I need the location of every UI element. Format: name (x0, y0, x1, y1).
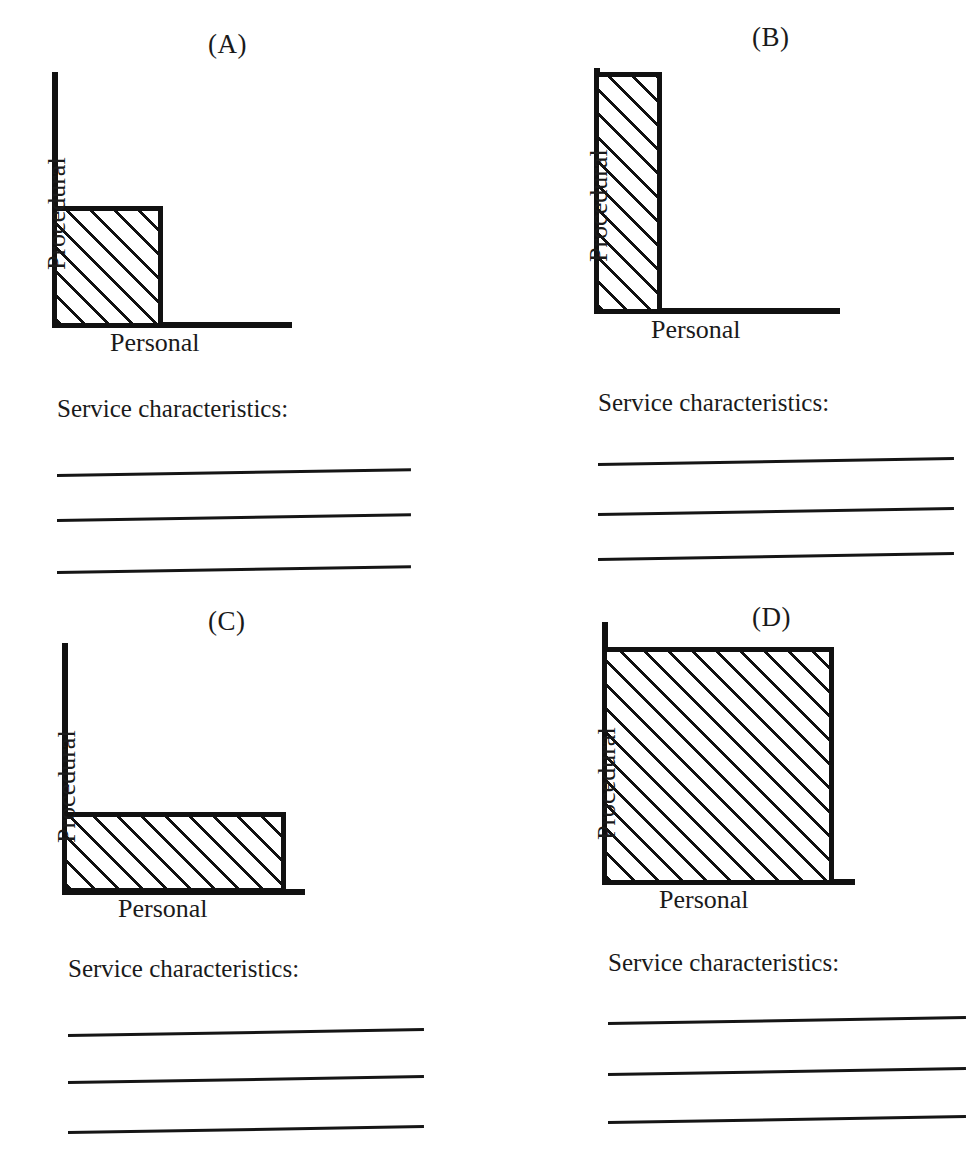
panel-d-service-characteristics-title: Service characteristics: (608, 950, 839, 975)
panel-b-blank-line-3 (598, 552, 954, 561)
panel-b-service-characteristics-title: Service characteristics: (598, 390, 829, 415)
panel-b-chart: Procedural Personal (0, 0, 979, 360)
figure-page: (A) Procedural Personal Service characte… (0, 0, 979, 1157)
panel-d-y-axis-label: Procedural (594, 727, 620, 840)
panel-d-blank-line-1 (608, 1016, 966, 1025)
panel-b-x-axis-label: Personal (651, 317, 741, 343)
panel-d-blank-line-3 (608, 1115, 966, 1124)
panel-d: (D) Procedural Personal Service characte… (0, 590, 979, 1157)
panel-d-x-axis-label: Personal (659, 887, 749, 913)
panel-b-blank-line-1 (598, 457, 954, 466)
panel-d-chart: Procedural Personal (0, 590, 979, 930)
panel-b: (B) Procedural Personal Service characte… (0, 0, 979, 590)
panel-b-blank-line-2 (598, 507, 954, 516)
panel-d-hatched-rect (602, 647, 834, 885)
panel-b-y-axis-label: Procedural (586, 149, 612, 262)
panel-d-blank-line-2 (608, 1067, 966, 1076)
